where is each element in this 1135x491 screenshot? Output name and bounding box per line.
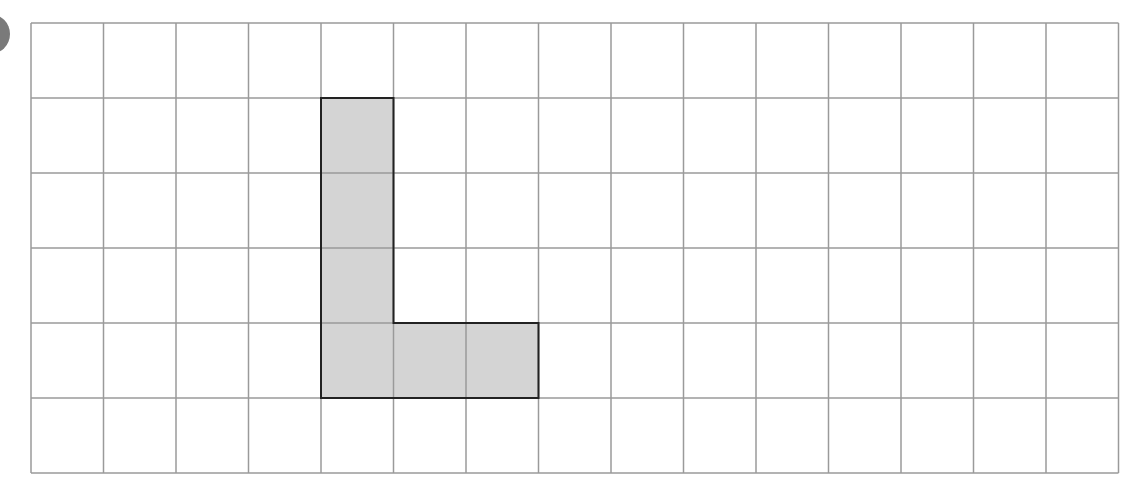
shaded-cell [466,323,539,398]
grid-canvas [30,22,1120,474]
shaded-cell [321,173,394,248]
shaded-cell [321,248,394,323]
square-grid [30,22,1120,474]
shaded-cell [394,323,467,398]
shaded-cell [321,98,394,173]
question-number-badge [0,14,10,54]
shaded-cell [321,323,394,398]
